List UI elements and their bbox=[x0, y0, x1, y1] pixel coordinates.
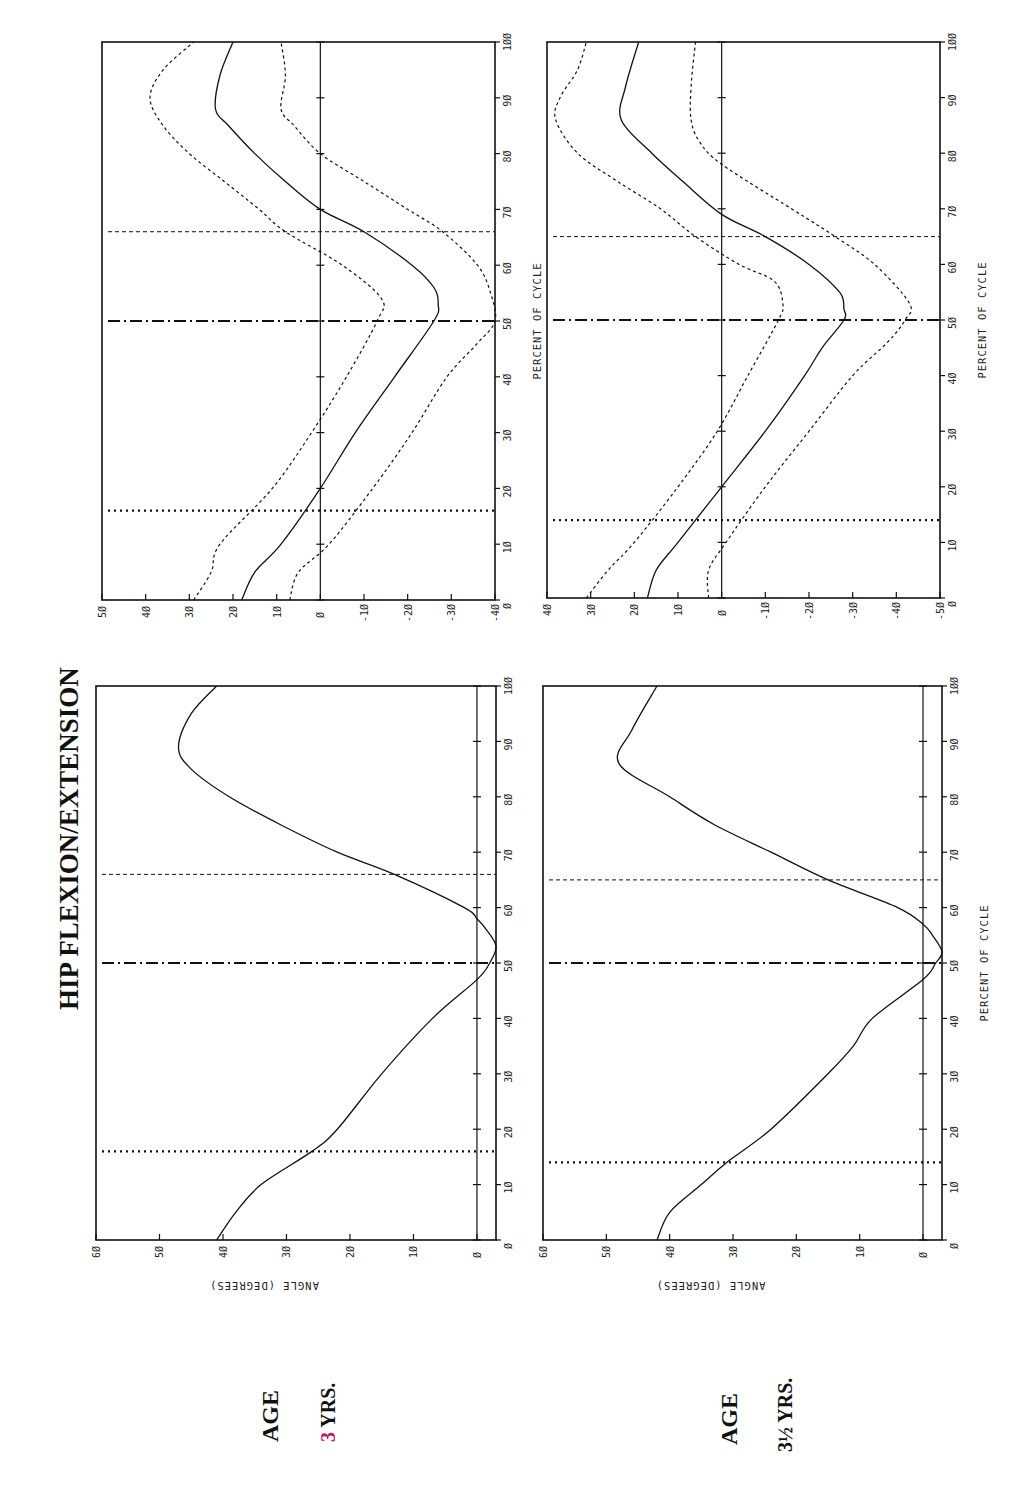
y-tick-label: 5Ø bbox=[601, 1246, 612, 1258]
x-axis-label: PERCENT OF CYCLE bbox=[531, 262, 543, 379]
y-tick-label: -2Ø bbox=[804, 602, 815, 620]
age-value: 3 YRS. bbox=[317, 1383, 339, 1442]
x-tick-label: 5Ø bbox=[947, 317, 958, 329]
x-tick-label: 1ØØ bbox=[947, 33, 958, 51]
y-tick-label: 4Ø bbox=[141, 606, 152, 618]
y-tick-label: 1Ø bbox=[272, 606, 283, 618]
x-tick-label: 3Ø bbox=[502, 430, 513, 442]
y-tick-label: 1Ø bbox=[855, 1246, 866, 1258]
y-tick-label: 2Ø bbox=[228, 606, 239, 618]
x-tick-label: 6Ø bbox=[503, 905, 514, 917]
x-tick-label: 4Ø bbox=[502, 374, 513, 386]
x-tick-label: 2Ø bbox=[503, 1126, 514, 1138]
x-tick-label: 4Ø bbox=[949, 1015, 960, 1027]
x-tick-label: 1Ø bbox=[502, 541, 513, 553]
x-axis-label: PERCENT OF CYCLE bbox=[978, 904, 990, 1021]
y-tick-label: 2Ø bbox=[629, 604, 640, 616]
x-tick-label: 1Ø bbox=[949, 1182, 960, 1194]
age-word: AGE bbox=[716, 1393, 742, 1445]
y-tick-label: -3Ø bbox=[446, 604, 457, 622]
x-tick-label: 1Ø bbox=[947, 539, 958, 551]
y-tick-label: 4Ø bbox=[542, 604, 553, 616]
x-tick-label: 9Ø bbox=[502, 95, 513, 107]
x-tick-label: 3Ø bbox=[503, 1071, 514, 1083]
figure-page: HIP FLEXION/EXTENSION AGE 3 YRS. AGE 3½ … bbox=[0, 0, 1028, 1486]
x-tick-label: 7Ø bbox=[949, 849, 960, 861]
chart-panel-age3_sd: Ø1Ø2Ø3Ø4Ø5Ø6Ø7Ø8Ø9Ø1ØØ-4Ø-3Ø-2Ø-1ØØ1Ø2Ø3… bbox=[97, 33, 543, 622]
x-tick-label: 8Ø bbox=[947, 150, 958, 162]
y-tick-label: 3Ø bbox=[586, 604, 597, 616]
y-tick-label: 3Ø bbox=[184, 606, 195, 618]
x-tick-label: Ø bbox=[949, 1243, 960, 1249]
chart-panel-age3_mean: Ø1Ø2Ø3Ø4Ø5Ø6Ø7Ø8Ø9Ø1ØØØ1Ø2Ø3Ø4Ø5Ø6ØANGLE… bbox=[91, 677, 514, 1292]
y-tick-label: Ø bbox=[717, 610, 728, 616]
age-label-3half-yrs: AGE 3½ YRS. bbox=[716, 1378, 796, 1452]
x-tick-label: 2Ø bbox=[502, 485, 513, 497]
x-tick-label: 4Ø bbox=[947, 373, 958, 385]
x-tick-label: 3Ø bbox=[949, 1071, 960, 1083]
chart-panels: Ø1Ø2Ø3Ø4Ø5Ø6Ø7Ø8Ø9Ø1ØØ-4Ø-3Ø-2Ø-1ØØ1Ø2Ø3… bbox=[91, 33, 990, 1292]
x-tick-label: 1ØØ bbox=[503, 677, 514, 695]
age-label-3yrs: AGE 3 YRS. bbox=[257, 1383, 339, 1442]
y-tick-label: 5Ø bbox=[154, 1246, 165, 1258]
x-tick-label: 5Ø bbox=[949, 960, 960, 972]
figure-title: HIP FLEXION/EXTENSION bbox=[54, 667, 84, 1010]
x-tick-label: 7Ø bbox=[502, 206, 513, 218]
x-tick-label: 6Ø bbox=[502, 262, 513, 274]
y-tick-label: Ø bbox=[315, 612, 326, 618]
x-axis-label: PERCENT OF CYCLE bbox=[976, 261, 988, 378]
x-tick-label: 1ØØ bbox=[949, 677, 960, 695]
x-tick-label: 3Ø bbox=[947, 428, 958, 440]
x-tick-label: 4Ø bbox=[503, 1015, 514, 1027]
x-tick-label: 6Ø bbox=[949, 905, 960, 917]
chart-panel-age35_mean: Ø1Ø2Ø3Ø4Ø5Ø6Ø7Ø8Ø9Ø1ØØØ1Ø2Ø3Ø4Ø5Ø6ØANGLE… bbox=[538, 677, 990, 1292]
x-tick-label: 5Ø bbox=[502, 318, 513, 330]
y-tick-label: 5Ø bbox=[97, 606, 108, 618]
y-tick-label: 1Ø bbox=[673, 604, 684, 616]
x-tick-label: 8Ø bbox=[502, 151, 513, 163]
y-tick-label: 3Ø bbox=[728, 1246, 739, 1258]
y-tick-label: -1Ø bbox=[359, 604, 370, 622]
y-tick-label: Ø bbox=[472, 1252, 483, 1258]
y-tick-label: 2Ø bbox=[791, 1246, 802, 1258]
y-tick-label: Ø bbox=[918, 1252, 929, 1258]
x-tick-label: 1Ø bbox=[503, 1182, 514, 1194]
chart-panel-age35_sd: Ø1Ø2Ø3Ø4Ø5Ø6Ø7Ø8Ø9Ø1ØØ-5Ø-4Ø-3Ø-2Ø-1ØØ1Ø… bbox=[542, 33, 988, 620]
y-axis-label: ANGLE (DEGREES) bbox=[656, 1280, 766, 1292]
y-tick-label: -2Ø bbox=[403, 604, 414, 622]
y-tick-label: -4Ø bbox=[891, 602, 902, 620]
x-tick-label: 8Ø bbox=[949, 794, 960, 806]
y-tick-label: 1Ø bbox=[408, 1246, 419, 1258]
x-tick-label: 8Ø bbox=[503, 794, 514, 806]
x-tick-label: 9Ø bbox=[503, 738, 514, 750]
x-tick-label: 7Ø bbox=[503, 849, 514, 861]
x-tick-label: 7Ø bbox=[947, 206, 958, 218]
y-tick-label: 2Ø bbox=[345, 1246, 356, 1258]
y-tick-label: -5Ø bbox=[935, 602, 946, 620]
y-axis-label: ANGLE (DEGREES) bbox=[209, 1280, 319, 1292]
x-tick-label: 2Ø bbox=[947, 484, 958, 496]
x-tick-label: 9Ø bbox=[949, 738, 960, 750]
x-tick-label: 2Ø bbox=[949, 1126, 960, 1138]
x-tick-label: Ø bbox=[947, 601, 958, 607]
y-tick-label: -3Ø bbox=[848, 602, 859, 620]
age-value: 3½ YRS. bbox=[774, 1378, 796, 1452]
y-tick-label: 6Ø bbox=[91, 1246, 102, 1258]
x-tick-label: 1ØØ bbox=[502, 33, 513, 51]
age-word: AGE bbox=[257, 1390, 283, 1442]
y-tick-label: 6Ø bbox=[538, 1246, 549, 1258]
y-tick-label: 3Ø bbox=[281, 1246, 292, 1258]
x-tick-label: Ø bbox=[503, 1243, 514, 1249]
x-tick-label: 9Ø bbox=[947, 95, 958, 107]
y-tick-label: -4Ø bbox=[490, 604, 501, 622]
y-tick-label: 4Ø bbox=[665, 1246, 676, 1258]
x-tick-label: Ø bbox=[502, 603, 513, 609]
x-tick-label: 6Ø bbox=[947, 261, 958, 273]
y-tick-label: -1Ø bbox=[760, 602, 771, 620]
y-tick-label: 4Ø bbox=[218, 1246, 229, 1258]
x-tick-label: 5Ø bbox=[503, 960, 514, 972]
